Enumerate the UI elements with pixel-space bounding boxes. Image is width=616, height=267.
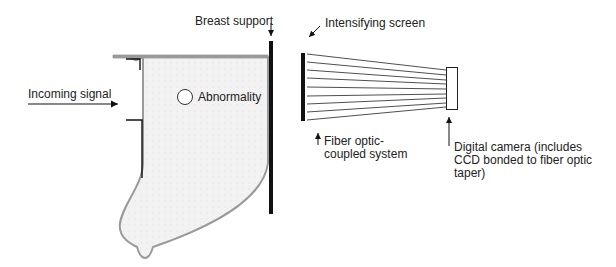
diagram-canvas: Breast support Intensifying screen Incom… bbox=[0, 0, 616, 267]
abnormality-circle bbox=[178, 90, 193, 105]
breast-support-plate bbox=[269, 41, 273, 214]
label-fiber-optic: Fiber optic- coupled system bbox=[324, 135, 407, 161]
intensifying-screen-arrow bbox=[309, 26, 320, 37]
label-intensifying-screen: Intensifying screen bbox=[325, 17, 425, 30]
label-digital-camera: Digital camera (includes CCD bonded to f… bbox=[454, 141, 592, 180]
fiber-optic-bundle bbox=[307, 54, 446, 120]
diagram-graphics bbox=[0, 0, 616, 267]
digital-camera bbox=[447, 68, 458, 110]
label-fiber-optic-line2: coupled system bbox=[324, 148, 407, 161]
label-abnormality: Abnormality bbox=[198, 91, 261, 104]
collimator bbox=[126, 59, 142, 178]
label-incoming-signal: Incoming signal bbox=[28, 88, 111, 101]
label-breast-support: Breast support bbox=[195, 15, 273, 28]
intensifying-screen bbox=[301, 53, 305, 121]
label-camera-line3: taper) bbox=[454, 167, 592, 180]
